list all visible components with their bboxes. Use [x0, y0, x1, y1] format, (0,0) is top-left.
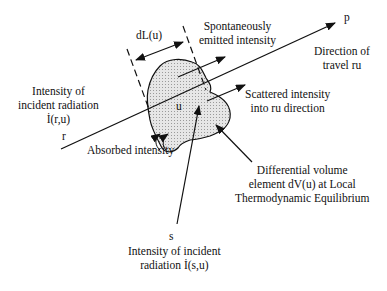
- incident-s-line-2: radiation İ(s,u): [128, 258, 221, 272]
- p-label: p: [344, 10, 350, 24]
- volume-line-1: Differential volume: [235, 163, 369, 177]
- incident-s-line-1: Intensity of incident: [128, 244, 221, 258]
- incident-r-line-1: Intensity of: [18, 84, 99, 98]
- incident-s-label: Intensity of incident radiation İ(s,u): [128, 244, 221, 272]
- scattered-line-2: into ru direction: [245, 101, 330, 115]
- direction-line-2: travel ru: [314, 58, 370, 72]
- r-label: r: [62, 129, 66, 143]
- volume-element-label: Differential volume element dV(u) at Loc…: [235, 163, 369, 205]
- scattered-line-1: Scattered intensity: [245, 87, 330, 101]
- volume-line-3: Thermodynamic Equilibrium: [235, 191, 369, 205]
- dL-label: dL(u): [136, 28, 162, 42]
- spontaneous-line-1: Spontaneously: [199, 19, 276, 33]
- incident-r-line-2: incident radiation: [18, 98, 99, 112]
- scattered-intensity-label: Scattered intensity into ru direction: [245, 87, 330, 115]
- dL-double-arrow: [136, 42, 183, 60]
- volume-line-2: element dV(u) at Local: [235, 177, 369, 191]
- differential-volume-element: [147, 59, 230, 151]
- spontaneous-line-2: emitted intensity: [199, 33, 276, 47]
- spontaneous-emission-label: Spontaneously emitted intensity: [199, 19, 276, 47]
- direction-label: Direction of travel ru: [314, 44, 370, 72]
- volume-pointer-arrow: [216, 125, 252, 162]
- u-label: u: [176, 99, 182, 113]
- absorbed-intensity-label: Absorbed intensity: [87, 143, 174, 157]
- incident-r-line-3: İ(r,u): [18, 112, 99, 126]
- s-label: s: [169, 229, 173, 243]
- incident-r-label: Intensity of incident radiation İ(r,u): [18, 84, 99, 126]
- direction-line-1: Direction of: [314, 44, 370, 58]
